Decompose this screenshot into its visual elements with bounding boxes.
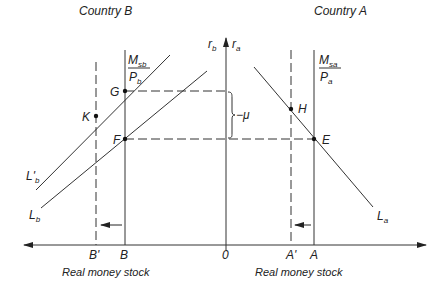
point-g: [123, 89, 127, 93]
caption-real-money-stock-a: Real money stock: [255, 266, 343, 278]
point-e: [312, 137, 316, 141]
supply-b-denominator: Pb: [129, 70, 142, 86]
point-f: [123, 137, 127, 141]
label-h: H: [298, 102, 307, 116]
supply-a-denominator: Pa: [320, 70, 333, 86]
mu-brace: [228, 92, 235, 138]
tick-b: B: [120, 248, 128, 262]
label-k: K: [82, 110, 91, 124]
axis-label-ra: ra: [232, 37, 241, 53]
supply-b-numerator: Msb: [128, 53, 147, 69]
label-g: G: [110, 85, 119, 99]
title-country-a: Country A: [314, 4, 367, 18]
demand-curve-lb-prime: [36, 55, 170, 190]
label-e: E: [322, 133, 331, 147]
tick-b-prime: B': [89, 248, 100, 262]
label-la: La: [377, 209, 389, 225]
label-lb: Lb: [29, 208, 41, 224]
label-f: F: [113, 133, 121, 147]
tick-a: A: [309, 248, 318, 262]
label-minus-mu: −μ: [236, 108, 250, 122]
point-h: [289, 107, 293, 111]
title-country-b: Country B: [79, 4, 132, 18]
two-country-money-market-diagram: Country B Country A rb ra Msb Pb G F K L…: [0, 0, 446, 291]
caption-real-money-stock-b: Real money stock: [62, 266, 150, 278]
label-lb-prime: L'b: [26, 169, 40, 185]
tick-a-prime: A': [285, 248, 297, 262]
supply-a-numerator: Msa: [319, 53, 338, 69]
point-k: [94, 114, 98, 118]
axis-label-rb: rb: [208, 37, 217, 53]
tick-origin: 0: [222, 248, 229, 262]
